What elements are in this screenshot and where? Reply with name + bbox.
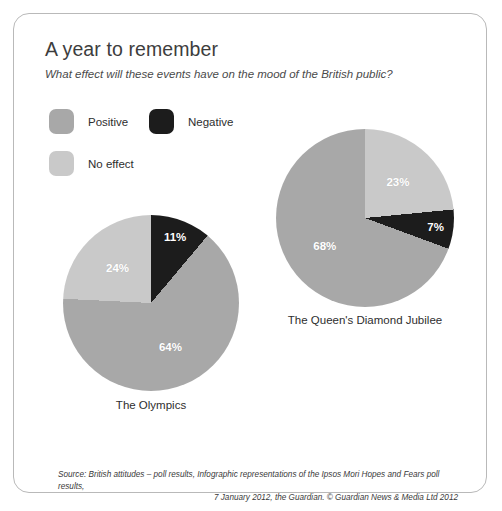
- pie-slice-label: 23%: [386, 176, 409, 188]
- pie-chart-caption: The Olympics: [116, 399, 186, 411]
- page-title: A year to remember: [45, 38, 218, 61]
- legend-label-no-effect: No effect: [88, 158, 134, 170]
- legend-label-negative: Negative: [188, 116, 233, 128]
- source-line-1: Source: British attitudes – poll results…: [58, 469, 458, 492]
- legend-swatch-positive-icon: [49, 109, 74, 134]
- pie-chart-jubilee: 23%7%68%The Queen's Diamond Jubilee: [276, 129, 454, 307]
- pie-slice-label: 64%: [159, 341, 182, 353]
- pie-slice-label: 68%: [313, 240, 336, 252]
- infographic-card: A year to remember What effect will thes…: [13, 13, 487, 493]
- pie-chart-olympics: 11%64%24%The Olympics: [63, 215, 239, 391]
- pie-slice-label: 24%: [106, 262, 129, 274]
- pie-graphic: 11%64%24%: [63, 215, 239, 391]
- legend-item-no-effect: No effect: [49, 151, 134, 176]
- source-line-2: 7 January 2012, the Guardian. © Guardian…: [58, 492, 458, 504]
- legend-label-positive: Positive: [88, 116, 128, 128]
- legend-swatch-negative-icon: [149, 109, 174, 134]
- source-footer: Source: British attitudes – poll results…: [58, 469, 458, 504]
- pie-chart-caption: The Queen's Diamond Jubilee: [288, 314, 442, 326]
- pie-graphic: 23%7%68%: [276, 129, 454, 307]
- legend-item-negative: Negative: [149, 109, 233, 134]
- page-subtitle: What effect will these events have on th…: [45, 68, 393, 80]
- pie-slice-label: 11%: [164, 231, 186, 243]
- pie-slice-label: 7%: [427, 221, 444, 233]
- legend-swatch-no-effect-icon: [49, 151, 74, 176]
- legend-item-positive: Positive: [49, 109, 128, 134]
- footer-divider: [45, 458, 457, 459]
